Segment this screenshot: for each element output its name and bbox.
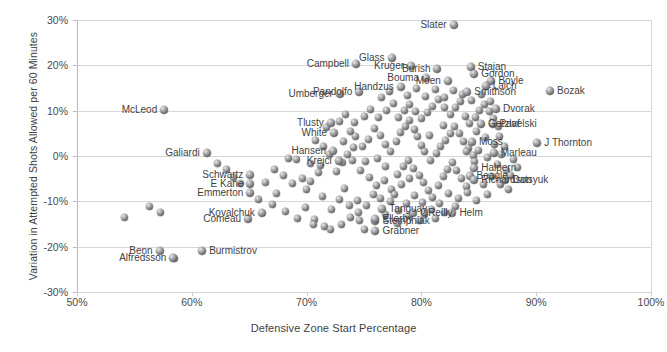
data-point — [214, 160, 221, 167]
data-point — [307, 178, 314, 185]
y-tick-label: 0% — [22, 150, 68, 162]
point-label: Handzus — [354, 82, 393, 92]
data-point — [157, 209, 164, 216]
data-point — [463, 88, 471, 96]
data-point — [394, 171, 401, 178]
point-label: Grabner — [382, 226, 419, 236]
data-point — [273, 190, 280, 197]
point-label: Campbell — [307, 59, 349, 69]
data-point — [416, 172, 423, 179]
gridline-y — [77, 292, 651, 293]
data-point — [441, 104, 448, 111]
data-point — [400, 163, 407, 170]
data-point — [464, 189, 471, 196]
point-label: White — [302, 128, 328, 138]
data-point — [293, 156, 300, 163]
x-tick-label: 100% — [621, 296, 667, 308]
data-point — [310, 221, 317, 228]
point-label: Helm — [459, 208, 482, 218]
data-point — [401, 107, 408, 114]
data-point — [442, 137, 449, 144]
data-point — [432, 86, 439, 93]
data-point — [411, 126, 418, 133]
data-point — [395, 114, 402, 121]
data-point — [370, 191, 377, 198]
x-tick-label: 50% — [47, 296, 107, 308]
data-point — [315, 169, 322, 176]
point-label: Pandolfo — [313, 87, 352, 97]
point-label: Smithson — [474, 87, 516, 97]
data-point — [436, 200, 443, 207]
point-label: McLeod — [122, 105, 158, 115]
x-tick-label: 90% — [506, 296, 566, 308]
point-label: Comeau — [203, 214, 241, 224]
data-point — [466, 120, 473, 127]
data-point — [381, 177, 388, 184]
data-point — [398, 181, 405, 188]
data-point — [426, 132, 433, 139]
data-point — [361, 113, 368, 120]
data-point — [393, 138, 400, 145]
data-point — [546, 87, 554, 95]
data-point — [487, 98, 494, 105]
data-point — [429, 103, 436, 110]
data-point — [490, 149, 498, 157]
point-label: Emmerton — [197, 188, 243, 198]
data-point — [262, 179, 269, 186]
y-tick-label: 20% — [22, 59, 68, 71]
y-tick-label: 10% — [22, 105, 68, 117]
data-point — [410, 165, 417, 172]
data-point — [349, 157, 356, 164]
y-tick-label: -10% — [22, 195, 68, 207]
point-label: Alfredsson — [119, 253, 166, 263]
point-label: Datsyuk — [512, 175, 548, 185]
data-point — [440, 122, 447, 129]
data-point — [121, 214, 128, 221]
point-label: Marleau — [501, 148, 537, 158]
data-point — [333, 168, 340, 175]
data-point — [460, 138, 467, 145]
data-point — [354, 197, 361, 204]
data-point — [472, 114, 479, 121]
data-point — [246, 171, 254, 179]
data-point — [355, 209, 362, 216]
point-label: Slater — [420, 20, 446, 30]
data-point — [377, 195, 384, 202]
point-label: Galiardi — [165, 148, 199, 158]
data-point — [473, 197, 480, 204]
data-point — [435, 182, 442, 189]
y-tick-mark — [73, 65, 77, 66]
data-point — [455, 195, 462, 202]
x-tick-label: 70% — [277, 296, 337, 308]
point-label: Krejci — [307, 156, 332, 166]
data-point — [424, 109, 431, 116]
point-label: OReilly — [420, 208, 452, 218]
y-tick-mark — [73, 111, 77, 112]
data-point — [463, 148, 470, 155]
x-axis-title: Defensive Zone Start Percentage — [0, 322, 667, 334]
data-point — [473, 128, 480, 135]
data-point — [492, 105, 500, 113]
data-point — [271, 166, 278, 173]
data-point — [444, 77, 452, 85]
data-point — [377, 132, 384, 139]
point-label: Pavelski — [500, 119, 537, 129]
data-point — [425, 187, 432, 194]
gridline-y — [77, 20, 651, 21]
data-point — [203, 149, 211, 157]
plot-right-border — [651, 20, 652, 293]
data-point — [447, 111, 454, 118]
data-point — [299, 175, 306, 182]
point-label: Moss — [479, 137, 503, 147]
y-tick-mark — [73, 20, 77, 21]
y-tick-label: -20% — [22, 241, 68, 253]
data-point — [462, 113, 469, 120]
data-point — [346, 202, 353, 209]
point-label: Moen — [416, 76, 441, 86]
data-point — [329, 147, 337, 155]
x-tick-label: 60% — [162, 296, 222, 308]
data-point — [258, 209, 266, 217]
data-point — [294, 215, 301, 222]
scatter-chart: Variation in Attempted Shots Allowed per… — [0, 0, 667, 352]
data-point — [330, 129, 338, 137]
